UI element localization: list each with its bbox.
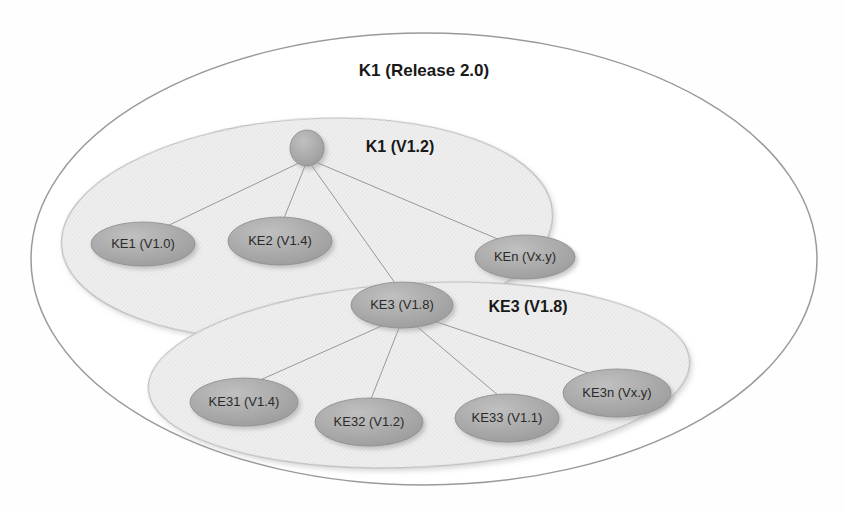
node-ken-label: KEn (Vx.y) [494, 249, 556, 264]
node-ke3n-label: KE3n (Vx.y) [582, 385, 651, 400]
node-ke1-label: KE1 (V1.0) [111, 236, 175, 251]
node-ken[interactable]: KEn (Vx.y) [475, 235, 575, 279]
node-ke3n[interactable]: KE3n (Vx.y) [563, 369, 671, 417]
node-ke33-label: KE33 (V1.1) [472, 410, 543, 425]
label-k1-release: K1 (Release 2.0) [359, 61, 489, 80]
node-ke32-label: KE32 (V1.2) [334, 414, 405, 429]
label-k1-v12: K1 (V1.2) [366, 138, 434, 155]
diagram-canvas: KE1 (V1.0) KE2 (V1.4) KEn (Vx.y) KE3 (V1… [0, 0, 844, 513]
node-ke31[interactable]: KE31 (V1.4) [190, 378, 298, 426]
node-ke31-label: KE31 (V1.4) [209, 394, 280, 409]
node-ke33[interactable]: KE33 (V1.1) [455, 394, 559, 442]
node-ke2-label: KE2 (V1.4) [248, 233, 312, 248]
node-root[interactable] [290, 130, 324, 166]
node-ke2[interactable]: KE2 (V1.4) [228, 217, 332, 265]
node-ke32[interactable]: KE32 (V1.2) [315, 398, 423, 446]
venn-tree-diagram: KE1 (V1.0) KE2 (V1.4) KEn (Vx.y) KE3 (V1… [0, 0, 844, 513]
node-ke3[interactable]: KE3 (V1.8) [351, 282, 453, 328]
node-ke1[interactable]: KE1 (V1.0) [91, 222, 195, 266]
node-ke3-label: KE3 (V1.8) [370, 297, 434, 312]
label-ke3-v18: KE3 (V1.8) [488, 298, 567, 315]
node-root-shape[interactable] [290, 130, 324, 166]
